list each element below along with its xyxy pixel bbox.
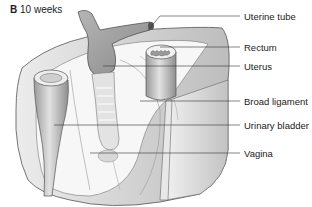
- label-urinary-bladder: Urinary bladder: [244, 120, 309, 131]
- rectum-structure: [146, 45, 176, 100]
- label-uterus: Uterus: [244, 61, 272, 72]
- label-rectum: Rectum: [244, 42, 277, 53]
- label-broad-ligament: Broad ligament: [244, 96, 308, 107]
- label-uterine-tube: Uterine tube: [244, 11, 296, 22]
- label-vagina: Vagina: [244, 148, 273, 159]
